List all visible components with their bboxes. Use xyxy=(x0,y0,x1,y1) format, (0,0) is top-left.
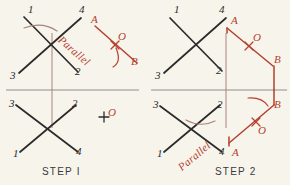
step1-bottom-cross xyxy=(16,105,78,152)
step2-bottom-label-2: 2 xyxy=(217,99,223,110)
step2-top-point-label-a: A xyxy=(231,15,238,26)
step1-bottom-label-3: 3 xyxy=(9,98,15,109)
step2-bottom-cross xyxy=(160,105,222,152)
step1-point-o-mark xyxy=(111,41,119,49)
step1-point-label-a: A xyxy=(91,14,98,25)
step2-top-label-3: 3 xyxy=(155,70,161,81)
step2-top-point-label-b: B xyxy=(274,54,281,65)
step1-arc-leader xyxy=(24,25,57,31)
step2-bottom-label-1: 1 xyxy=(157,148,163,159)
step2-bottom-line-b-a xyxy=(229,105,274,143)
step2-caption: STEP 2 xyxy=(215,166,256,177)
step1-bottom-label-1: 1 xyxy=(13,148,19,159)
step1-top-label-3: 3 xyxy=(10,70,16,81)
step1-caption: STEP I xyxy=(42,166,81,177)
step2-top-label-4: 4 xyxy=(219,4,225,15)
step2-bottom-point-label-b: B xyxy=(274,99,281,110)
step2-top-point-o-mark xyxy=(245,42,253,50)
step1-loose-point-label-o: O xyxy=(108,107,116,118)
step1-point-label-b: B xyxy=(131,56,138,67)
step2-bottom-label-3: 3 xyxy=(153,99,159,110)
step1-top-label-1: 1 xyxy=(28,4,34,15)
step1-arc-angle xyxy=(113,48,118,67)
diagram-vector-layer xyxy=(0,0,290,185)
step2-bottom-point-label-a: A xyxy=(232,147,239,158)
step2-bottom-point-label-o: O xyxy=(258,125,266,136)
step1-top-label-4: 4 xyxy=(79,4,85,15)
step2-bottom-label-4: 4 xyxy=(219,146,225,157)
diagram-canvas: 1 4 3 2 3 2 1 4 A O B O Parallel STEP I … xyxy=(0,0,290,185)
step1-bottom-label-4: 4 xyxy=(76,146,82,157)
step2-top-point-label-o: O xyxy=(253,32,261,43)
step1-top-label-2: 2 xyxy=(75,66,81,77)
step2-top-label-2: 2 xyxy=(216,65,222,76)
step2-arc-angle xyxy=(248,98,268,106)
step1-point-label-o: O xyxy=(118,31,126,42)
step2-top-label-1: 1 xyxy=(174,4,180,15)
step1-bottom-label-2: 2 xyxy=(72,98,78,109)
